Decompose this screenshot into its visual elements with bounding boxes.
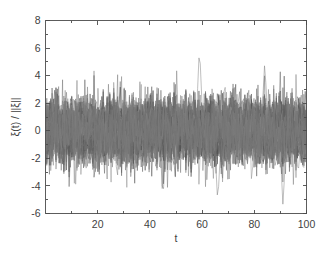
plot-clip-mask xyxy=(0,0,325,21)
x-tick-label: 20 xyxy=(92,218,104,230)
y-tick-label: -6 xyxy=(31,207,40,219)
x-tick-label: 80 xyxy=(248,218,260,230)
x-tick-label: 40 xyxy=(144,218,156,230)
y-tick-label: 6 xyxy=(35,42,41,54)
y-tick-label: -4 xyxy=(31,180,40,192)
y-axis-title: ξ(t) / ||ξ|| xyxy=(9,98,21,137)
figure-canvas: -6-4-20246820406080100 tξ(t) / ||ξ|| xyxy=(0,0,325,256)
y-tick-label: 2 xyxy=(35,97,41,109)
x-tick-label: 60 xyxy=(196,218,208,230)
x-axis-title: t xyxy=(175,232,178,244)
line-chart: -6-4-20246820406080100 tξ(t) / ||ξ|| xyxy=(0,0,325,256)
trace-lines-group xyxy=(46,58,307,204)
y-tick-label: 0 xyxy=(35,124,41,136)
x-tick-label: 100 xyxy=(298,218,316,230)
y-tick-label: 8 xyxy=(35,14,41,26)
plot-clip-mask xyxy=(0,214,325,256)
y-tick-label: -2 xyxy=(31,152,40,164)
y-tick-label: 4 xyxy=(35,69,41,81)
